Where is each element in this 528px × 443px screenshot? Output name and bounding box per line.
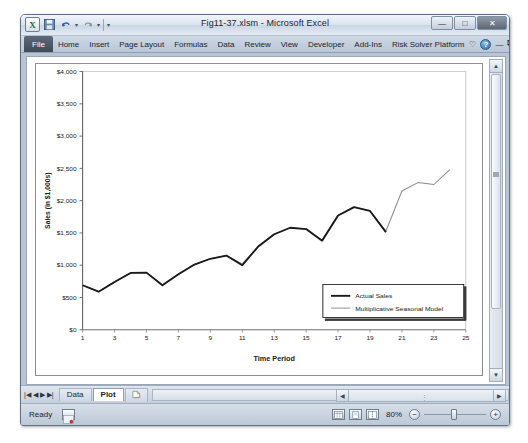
x-tick-label: 5 <box>145 334 149 341</box>
y-tick-label: $1,000 <box>57 262 77 269</box>
restore-window-icon[interactable]: ⧉ <box>507 39 510 49</box>
excel-window: X ▾ ▾ <box>20 14 510 426</box>
y-tick-label: $3,500 <box>57 100 77 107</box>
scroll-grip <box>493 172 499 177</box>
zoom-out-button[interactable]: − <box>409 409 420 420</box>
scroll-left-arrow[interactable]: ◀ <box>337 390 349 401</box>
scroll-right-arrow[interactable]: ▶ <box>493 390 505 401</box>
tab-formulas[interactable]: Formulas <box>169 36 212 52</box>
y-tick-label: $2,500 <box>57 165 77 172</box>
tab-review[interactable]: Review <box>239 36 275 52</box>
horizontal-scrollbar[interactable]: ◀ ⋮ ▶ <box>336 389 506 402</box>
page-break-view-icon[interactable] <box>366 409 379 420</box>
macro-record-icon[interactable] <box>62 409 75 420</box>
tab-add-ins[interactable]: Add-Ins <box>349 36 387 52</box>
scroll-down-arrow[interactable]: ▼ <box>490 368 502 381</box>
last-sheet-button[interactable]: ▶| <box>47 391 54 399</box>
ribbon-tab-strip: File Home Insert Page Layout Formulas Da… <box>21 36 509 53</box>
worksheet-canvas[interactable]: $0$500$1,000$1,500$2,000$2,500$3,000$3,5… <box>26 56 506 385</box>
legend-label-seasonal-model: Multiplicative Seasonal Model <box>355 305 443 313</box>
horizontal-scroll-area: ◀ ⋮ ▶ <box>336 387 506 403</box>
x-tick-label: 7 <box>177 334 181 341</box>
worksheet-area: $0$500$1,000$1,500$2,000$2,500$3,000$3,5… <box>21 53 509 385</box>
normal-view-icon[interactable] <box>332 409 345 420</box>
tab-risk-solver-platform[interactable]: Risk Solver Platform <box>387 36 469 52</box>
x-tick-label: 23 <box>430 334 438 341</box>
y-tick-label: $2,000 <box>57 197 77 204</box>
tab-home[interactable]: Home <box>53 36 84 52</box>
x-axis-title: Time Period <box>253 355 295 362</box>
status-bar: Ready <box>21 403 509 425</box>
zoom-level-label: 80% <box>386 410 402 419</box>
x-tick-label: 11 <box>239 334 246 341</box>
help-icon[interactable]: ? <box>480 39 491 50</box>
y-tick-label: $4,000 <box>57 68 77 75</box>
x-tick-label: 25 <box>462 334 470 341</box>
tab-developer[interactable]: Developer <box>303 36 349 52</box>
vertical-scrollbar[interactable]: ▲ ▼ <box>489 59 503 382</box>
ribbon-right-controls: ♡ ? — ⧉ ✕ <box>469 36 510 52</box>
close-button[interactable]: ✕ <box>477 16 507 30</box>
x-tick-label: 17 <box>334 334 342 341</box>
horizontal-scroll-grip: ⋮ <box>421 394 426 399</box>
x-tick-label: 13 <box>271 334 279 341</box>
zoom-in-button[interactable]: + <box>490 409 501 420</box>
y-axis-title: Sales (in $1,000s) <box>44 172 52 228</box>
status-text: Ready <box>21 410 52 419</box>
vertical-scroll-thumb[interactable] <box>491 74 501 309</box>
line-chart: $0$500$1,000$1,500$2,000$2,500$3,000$3,5… <box>36 64 482 375</box>
tab-page-layout[interactable]: Page Layout <box>114 36 169 52</box>
tab-view[interactable]: View <box>276 36 303 52</box>
sheet-tab-data[interactable]: Data <box>59 388 92 401</box>
maximize-button[interactable]: □ <box>454 16 476 30</box>
tab-data[interactable]: Data <box>213 36 240 52</box>
zoom-slider[interactable] <box>424 409 486 420</box>
chart-object[interactable]: $0$500$1,000$1,500$2,000$2,500$3,000$3,5… <box>35 63 483 376</box>
x-tick-label: 3 <box>113 334 117 341</box>
sheet-nav-buttons[interactable]: |◀ ◀ ▶ ▶| <box>24 391 59 399</box>
y-tick-label: $500 <box>62 294 77 301</box>
scroll-up-arrow[interactable]: ▲ <box>490 60 502 73</box>
tab-file[interactable]: File <box>24 36 53 52</box>
legend-label-actual-sales: Actual Sales <box>355 293 392 300</box>
x-tick-label: 15 <box>303 334 311 341</box>
y-tick-label: $0 <box>69 326 77 333</box>
window-controls[interactable]: — □ ✕ <box>431 16 507 30</box>
y-tick-label: $1,500 <box>57 229 77 236</box>
chart-legend: Actual Sales Multiplicative Seasonal Mod… <box>323 285 467 321</box>
zoom-slider-handle[interactable] <box>451 409 457 420</box>
minimize-button[interactable]: — <box>431 16 453 30</box>
tab-insert[interactable]: Insert <box>84 36 114 52</box>
sheet-tab-plot[interactable]: Plot <box>93 388 124 401</box>
y-tick-label: $3,000 <box>57 132 77 139</box>
x-tick-label: 19 <box>366 334 374 341</box>
minimize-ribbon-icon[interactable]: — <box>495 40 503 49</box>
first-sheet-button[interactable]: |◀ <box>24 391 31 399</box>
x-tick-label: 1 <box>81 334 85 341</box>
title-bar: X ▾ ▾ <box>21 15 509 36</box>
prev-sheet-button[interactable]: ◀ <box>33 391 38 399</box>
collapse-ribbon-icon[interactable]: ♡ <box>469 40 476 49</box>
new-sheet-icon[interactable] <box>125 388 148 402</box>
page-layout-view-icon[interactable] <box>349 409 362 420</box>
next-sheet-button[interactable]: ▶ <box>40 391 45 399</box>
status-right-controls: 80% − + <box>332 409 509 420</box>
x-tick-label: 9 <box>209 334 213 341</box>
x-tick-label: 21 <box>398 334 406 341</box>
